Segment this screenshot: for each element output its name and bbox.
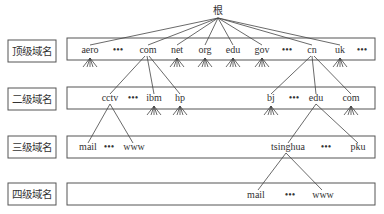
level-label-tld: 顶级域名 (12, 45, 52, 57)
sld-third-edges (88, 104, 358, 143)
level-label-sld: 二级域名 (12, 93, 52, 105)
node-aero: aero (81, 44, 98, 55)
level-label-fourth: 四级域名 (12, 188, 52, 200)
node-edu-cn: edu (309, 92, 323, 103)
level-label-third: 三级域名 (12, 141, 52, 153)
ellipsis: ••• (321, 141, 332, 152)
node-com-cn: com (342, 92, 359, 103)
fourth-nodes: mail ••• www (247, 189, 334, 200)
ellipsis: ••• (104, 141, 115, 152)
sld-nodes: cctv ••• ibm hp bj ••• edu com (102, 92, 360, 103)
tld-nodes: aero ••• com net org edu gov ••• cn uk •… (81, 44, 367, 55)
ellipsis: ••• (282, 44, 293, 55)
node-edu: edu (226, 44, 240, 55)
root-node: 根 (213, 4, 223, 16)
node-pku: pku (351, 141, 366, 152)
node-net: net (171, 44, 183, 55)
ellipsis: ••• (113, 44, 124, 55)
node-mail-cctv: mail (79, 141, 97, 152)
node-www-cctv: www (123, 141, 145, 152)
node-cn: cn (307, 44, 316, 55)
dns-hierarchy-diagram: 根 顶级域名 二级域名 三级域名 四级域名 aero ••• com net o… (0, 0, 384, 214)
node-gov: gov (255, 44, 270, 55)
node-hp: hp (175, 92, 185, 103)
third-nodes: mail ••• www tsinghua ••• pku (79, 141, 365, 152)
root-edges (90, 18, 340, 45)
ellipsis: ••• (357, 44, 368, 55)
ellipsis: ••• (128, 92, 139, 103)
node-mail-tsinghua: mail (247, 189, 265, 200)
node-uk: uk (335, 44, 345, 55)
ellipsis: ••• (285, 189, 296, 200)
ellipsis: ••• (289, 92, 300, 103)
node-org: org (198, 44, 211, 55)
node-com: com (139, 44, 156, 55)
node-cctv: cctv (102, 92, 119, 103)
node-bj: bj (267, 92, 275, 103)
node-www-tsinghua: www (312, 189, 334, 200)
node-ibm: ibm (146, 92, 162, 103)
node-tsinghua: tsinghua (271, 141, 305, 152)
level-labels: 顶级域名 二级域名 三级域名 四级域名 (8, 40, 56, 205)
third-fourth-edges (258, 153, 322, 190)
